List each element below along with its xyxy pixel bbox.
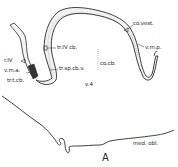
label-tr-iv-cb: tr.IV cb. [57, 45, 77, 51]
label-v4: v.4 [85, 82, 93, 88]
label-v-m-p: v.m.p. [145, 45, 161, 51]
label-co-vest: co.vest. [133, 21, 154, 27]
label-tr-t-cb: tr.t.cb. [7, 78, 24, 84]
label-med-obl: med. obl. [133, 141, 158, 147]
panel-label: A [102, 153, 109, 163]
label-tr-sp-cb-v: tr.sp.cb.v. [59, 66, 85, 72]
label-r-iv: r.IV [4, 58, 13, 64]
anatomical-figure: r.IV v.m.a. tr.t.cb. tr.IV cb. tr.sp.cb.… [0, 0, 178, 167]
label-v-m-a: v.m.a. [4, 68, 20, 74]
label-co-cb: co.cb. [100, 61, 116, 67]
